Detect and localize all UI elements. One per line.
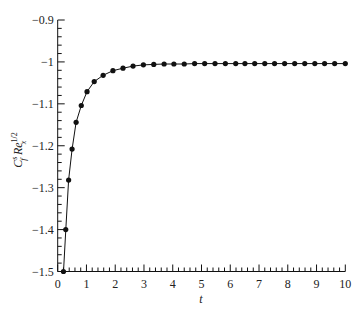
- data-point: [292, 61, 297, 66]
- x-tick-label: 8: [285, 277, 291, 291]
- data-point: [120, 66, 125, 71]
- ticks: [58, 20, 346, 272]
- data-point: [130, 64, 135, 69]
- data-point: [141, 62, 146, 67]
- y-tick-label: −1.5: [32, 265, 54, 279]
- data-point: [332, 61, 337, 66]
- data-point: [162, 61, 167, 66]
- y-tick-label: −1.2: [32, 139, 54, 153]
- data-point: [171, 61, 176, 66]
- data-point: [151, 62, 156, 67]
- axes: [58, 20, 346, 272]
- data-point: [182, 61, 187, 66]
- data-point: [61, 269, 66, 274]
- data-point: [192, 61, 197, 66]
- data-point: [262, 61, 267, 66]
- x-tick-label: 1: [83, 277, 89, 291]
- data-point: [233, 61, 238, 66]
- data-point: [63, 227, 68, 232]
- series-line: [64, 64, 346, 272]
- data-point: [322, 61, 327, 66]
- x-tick-label: 4: [170, 277, 176, 291]
- svg-text:Csf Re1/2x: Csf Re1/2x: [10, 132, 28, 168]
- data-point: [302, 61, 307, 66]
- y-tick-label: −0.9: [32, 13, 54, 27]
- data-point: [312, 61, 317, 66]
- data-point: [101, 73, 106, 78]
- y-axis-title: Csf Re1/2x: [10, 132, 28, 168]
- data-point: [223, 61, 228, 66]
- y-tick-label: −1.4: [32, 223, 54, 237]
- data-point: [252, 61, 257, 66]
- data-point: [282, 61, 287, 66]
- data-point: [343, 61, 348, 66]
- data-point: [212, 61, 217, 66]
- series-markers: [61, 61, 348, 274]
- x-tick-label: 6: [227, 277, 233, 291]
- data-point: [92, 79, 97, 84]
- y-tick-label: −1.3: [32, 181, 54, 195]
- y-tick-label: −1: [41, 55, 54, 69]
- data-point: [79, 103, 84, 108]
- x-tick-label: 10: [339, 277, 351, 291]
- tick-labels: 012345678910−0.9−1−1.1−1.2−1.3−1.4−1.5: [32, 13, 351, 291]
- x-tick-label: 3: [141, 277, 147, 291]
- x-tick-label: 2: [112, 277, 118, 291]
- data-point: [110, 68, 115, 73]
- data-point: [242, 61, 247, 66]
- y-tick-label: −1.1: [32, 97, 54, 111]
- data-point: [69, 147, 74, 152]
- x-axis-title: t: [199, 292, 203, 306]
- line-chart: 012345678910−0.9−1−1.1−1.2−1.3−1.4−1.5 t…: [0, 0, 364, 316]
- data-point: [84, 89, 89, 94]
- data-point: [272, 61, 277, 66]
- x-tick-label: 5: [199, 277, 205, 291]
- x-tick-label: 0: [55, 277, 61, 291]
- data-point: [74, 120, 79, 125]
- data-point: [66, 178, 71, 183]
- x-tick-label: 7: [256, 277, 262, 291]
- x-tick-label: 9: [314, 277, 320, 291]
- data-point: [202, 61, 207, 66]
